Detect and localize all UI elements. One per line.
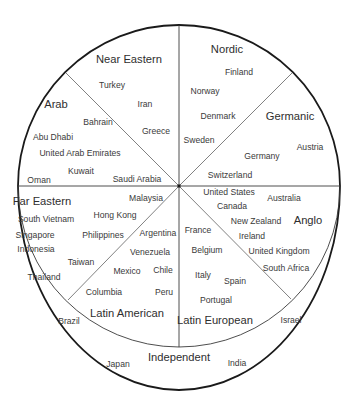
country-label-united-kingdom: United Kingdom (248, 247, 309, 256)
country-label-indonesia: Indonesia (17, 245, 54, 254)
cluster-label-arab: Arab (44, 99, 68, 110)
country-label-oman: Oman (27, 176, 50, 185)
cluster-label-latin-european: Latin European (177, 315, 253, 326)
country-label-thailand: Thailand (28, 273, 61, 282)
cluster-label-nordic: Nordic (211, 44, 243, 55)
country-label-columbia: Columbia (86, 288, 122, 297)
country-label-belgium: Belgium (191, 246, 222, 255)
country-label-france: France (185, 226, 212, 235)
country-label-hong-kong: Hong Kong (93, 211, 136, 220)
country-label-saudi-arabia: Saudi Arabia (113, 175, 162, 184)
country-label-greece: Greece (142, 127, 170, 136)
country-label-italy: Italy (195, 271, 211, 280)
country-label-philippines: Philippines (82, 231, 124, 240)
country-label-iran: Iran (138, 100, 153, 109)
country-label-new-zealand: New Zealand (231, 217, 282, 226)
country-label-norway: Norway (190, 87, 219, 96)
country-label-south-africa: South Africa (263, 264, 309, 273)
country-label-bahrain: Bahrain (83, 118, 113, 127)
country-label-abu-dhabi: Abu Dhabi (33, 133, 73, 142)
country-label-ireland: Ireland (239, 232, 265, 241)
country-label-sweden: Sweden (183, 136, 214, 145)
cluster-label-germanic: Germanic (266, 111, 315, 122)
country-label-mexico: Mexico (113, 267, 140, 276)
country-label-denmark: Denmark (201, 112, 236, 121)
country-label-taiwan: Taiwan (68, 258, 95, 267)
country-label-argentina: Argentina (140, 229, 177, 238)
cluster-label-latin-american: Latin American (90, 308, 164, 319)
country-label-india: India (228, 359, 247, 368)
country-label-venezuela: Venezuela (130, 248, 170, 257)
country-label-united-states: United States (203, 188, 255, 197)
country-label-chile: Chile (153, 266, 173, 275)
country-label-singapore: Singapore (15, 231, 54, 240)
country-label-malaysia: Malaysia (129, 194, 163, 203)
country-label-switzerland: Switzerland (208, 171, 252, 180)
country-label-peru: Peru (155, 288, 173, 297)
cluster-label-anglo: Anglo (294, 215, 323, 226)
country-label-portugal: Portugal (200, 296, 232, 305)
country-label-israel: Israel (280, 316, 301, 325)
country-label-japan: Japan (106, 360, 129, 369)
country-label-germany: Germany (244, 152, 279, 161)
country-label-australia: Australia (267, 194, 300, 203)
cluster-label-independent: Independent (148, 352, 210, 363)
country-label-south-vietnam: South Vietnam (18, 215, 74, 224)
country-label-united-arab-emirates: United Arab Emirates (39, 149, 120, 158)
country-label-kuwait: Kuwait (68, 167, 94, 176)
cluster-label-far-eastern: Far Eastern (13, 196, 71, 207)
country-label-canada: Canada (217, 202, 247, 211)
center-point (178, 185, 181, 188)
country-label-turkey: Turkey (99, 81, 125, 90)
cluster-label-near-eastern: Near Eastern (96, 54, 162, 65)
country-label-spain: Spain (224, 277, 246, 286)
country-label-austria: Austria (297, 143, 324, 152)
country-label-brazil: Brazil (58, 317, 80, 326)
divider-diagonal-sw (68, 186, 179, 300)
country-label-finland: Finland (225, 68, 253, 77)
